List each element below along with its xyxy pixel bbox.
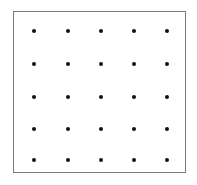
grid-dot [32,29,36,33]
grid-dot [66,62,70,66]
dot-rows: 5 [0,0,1,1]
figure-type: dot-grid-diagram [0,0,1,1]
figure-canvas: 5 by 5 square dot lattice dot-grid-diagr… [0,0,197,185]
figure-title: 5 by 5 square dot lattice [0,0,1,1]
grid-dot [66,95,70,99]
grid-dot [66,127,70,131]
grid-dot [66,29,70,33]
grid-dot [99,29,103,33]
grid-dot [32,158,36,162]
bounding-square [13,11,186,173]
grid-dot [132,158,136,162]
grid-dot [32,62,36,66]
grid-dot [165,95,169,99]
grid-dot [99,62,103,66]
grid-dot [32,127,36,131]
grid-dot [99,127,103,131]
dot-count: 25 [0,0,1,1]
grid-dot [132,127,136,131]
grid-dot [66,158,70,162]
grid-dot [132,62,136,66]
grid-dot [165,158,169,162]
dot-columns: 5 [0,0,1,1]
grid-dot [165,29,169,33]
grid-dot [132,95,136,99]
grid-dot [165,62,169,66]
grid-dot [32,95,36,99]
grid-dot [165,127,169,131]
grid-dot [99,158,103,162]
grid-dot [99,95,103,99]
grid-dot [132,29,136,33]
